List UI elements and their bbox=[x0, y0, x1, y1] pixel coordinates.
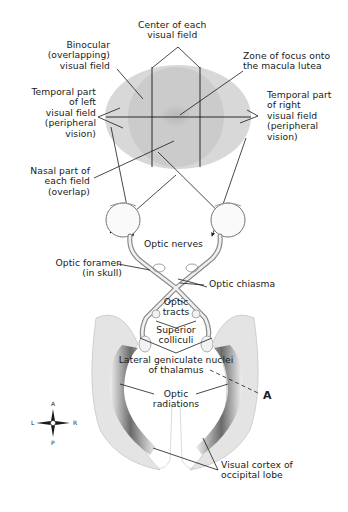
label-zone-of-focus: Zone of focus onto the macula lutea bbox=[243, 51, 330, 72]
compass-rose bbox=[36, 409, 70, 437]
right-eye bbox=[211, 203, 245, 237]
left-eye bbox=[106, 203, 140, 237]
label-temporal-left: Temporal part of left visual field (peri… bbox=[14, 87, 96, 139]
label-optic-radiations: Optic radiations bbox=[146, 389, 206, 410]
macula-zone bbox=[162, 106, 190, 126]
label-superior-colliculi: Superior colliculi bbox=[150, 325, 202, 346]
compass-anterior: A bbox=[51, 400, 55, 407]
label-nasal-part: Nasal part of each field (overlap) bbox=[18, 166, 90, 197]
label-visual-cortex: Visual cortex of occipital lobe bbox=[221, 460, 293, 481]
visual-pathway-diagram: Center of each visual field Binocular (o… bbox=[0, 0, 348, 512]
label-lateral-geniculate: Lateral geniculate nuclei of thalamus bbox=[114, 355, 238, 376]
label-temporal-right: Temporal part of right visual field (per… bbox=[267, 90, 331, 142]
compass-posterior: P bbox=[51, 439, 55, 446]
label-optic-nerves: Optic nerves bbox=[144, 239, 203, 249]
label-center-of-field: Center of each visual field bbox=[138, 20, 206, 41]
compass-left: L bbox=[31, 419, 34, 426]
label-optic-foramen: Optic foramen (in skull) bbox=[30, 258, 122, 279]
label-optic-chiasma: Optic chiasma bbox=[209, 279, 275, 289]
compass-right: R bbox=[73, 419, 77, 426]
label-optic-tracts: Optic tracts bbox=[158, 297, 194, 318]
eyes bbox=[106, 203, 245, 237]
diagram-artwork bbox=[0, 0, 348, 512]
label-marker-a: A bbox=[263, 391, 272, 401]
label-binocular-field: Binocular (overlapping) visual field bbox=[38, 40, 110, 71]
